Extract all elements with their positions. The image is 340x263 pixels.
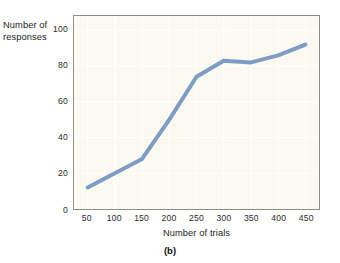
y-tick-label: 100 [46,24,68,34]
data-line-layer [74,16,319,209]
x-tick-label: 50 [72,213,102,223]
x-tick-label: 450 [291,213,321,223]
data-line-series [88,45,306,188]
x-tick-label: 300 [209,213,239,223]
y-tick-label: 40 [46,132,68,142]
x-axis-title: Number of trials [73,228,320,238]
x-tick-label: 150 [127,213,157,223]
figure-container: Number of responses 020406080100 5010015… [0,0,340,263]
x-tick-label: 200 [154,213,184,223]
x-tick-label: 400 [264,213,294,223]
figure-caption: (b) [0,245,340,256]
y-tick-label: 80 [46,60,68,70]
y-tick-label: 20 [46,168,68,178]
y-tick-label: 60 [46,96,68,106]
x-tick-label: 100 [99,213,129,223]
x-tick-label: 350 [236,213,266,223]
y-tick-label: 0 [46,205,68,215]
x-tick-label: 250 [182,213,212,223]
plot-area [73,15,320,210]
